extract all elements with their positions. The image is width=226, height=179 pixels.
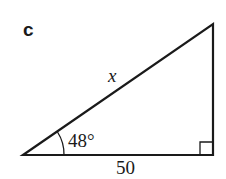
triangle-diagram: c x 48° 50 [0, 0, 226, 179]
hypotenuse-label: x [108, 66, 116, 85]
base-label: 50 [116, 158, 135, 177]
part-label: c [23, 20, 34, 39]
triangle-shape [23, 24, 213, 155]
angle-arc [58, 132, 65, 155]
angle-label: 48° [68, 131, 95, 150]
right-angle-marker [200, 142, 213, 155]
